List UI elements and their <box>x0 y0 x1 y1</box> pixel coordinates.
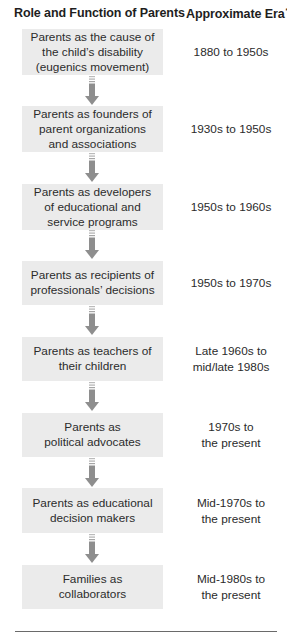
down-arrow-icon <box>85 230 99 260</box>
role-box-6: Parents as political advocates <box>22 413 163 457</box>
role-text: Parents as founders of parent organizati… <box>33 107 152 152</box>
down-arrow-icon <box>85 534 99 564</box>
role-box-8: Families as collaborators <box>22 565 163 609</box>
bottom-divider <box>15 631 277 632</box>
era-text: 1930s to 1950s <box>191 121 272 137</box>
era-text: 1880 to 1950s <box>194 44 269 60</box>
role-text: Parents as the cause of the child’s disa… <box>31 30 155 75</box>
role-text: Parents as developers of educational and… <box>34 185 151 230</box>
down-arrow-icon <box>85 153 99 183</box>
role-box-3: Parents as developers of educational and… <box>22 184 163 230</box>
era-1: 1880 to 1950s <box>184 29 278 75</box>
footnote-mark: * <box>286 6 287 15</box>
role-column-header: Role and Function of Parents <box>14 6 174 20</box>
role-text: Parents as political advocates <box>44 420 140 450</box>
era-column-header: Approximate Era* <box>186 6 286 21</box>
era-2: 1930s to 1950s <box>184 106 278 152</box>
role-column-header-label: Role and Function of Parents <box>14 6 185 20</box>
role-text: Parents as teachers of their children <box>33 344 151 374</box>
era-text: Mid-1970s to the present <box>197 495 265 527</box>
era-4: 1950s to 1970s <box>184 261 278 305</box>
role-text: Parents as educational decision makers <box>32 496 152 526</box>
role-box-5: Parents as teachers of their children <box>22 337 163 381</box>
era-text: Late 1960s to mid/late 1980s <box>193 343 270 375</box>
era-7: Mid-1970s to the present <box>184 488 278 533</box>
era-5: Late 1960s to mid/late 1980s <box>184 337 278 381</box>
era-text: 1950s to 1970s <box>191 275 272 291</box>
role-text: Parents as recipients of professionals’ … <box>30 268 154 298</box>
era-8: Mid-1980s to the present <box>184 565 278 609</box>
era-column-header-label: Approximate Era <box>186 7 285 21</box>
down-arrow-icon <box>85 76 99 106</box>
down-arrow-icon <box>85 458 99 488</box>
era-text: 1950s to 1960s <box>191 199 272 215</box>
role-box-2: Parents as founders of parent organizati… <box>22 106 163 152</box>
down-arrow-icon <box>85 382 99 412</box>
role-text: Families as collaborators <box>59 572 127 602</box>
role-box-1: Parents as the cause of the child’s disa… <box>22 29 163 75</box>
role-box-7: Parents as educational decision makers <box>22 488 163 533</box>
era-text: Mid-1980s to the present <box>197 571 265 603</box>
down-arrow-icon <box>85 306 99 336</box>
era-3: 1950s to 1960s <box>184 184 278 230</box>
era-text: 1970s to the present <box>201 419 260 451</box>
role-box-4: Parents as recipients of professionals’ … <box>22 261 163 305</box>
era-6: 1970s to the present <box>184 413 278 457</box>
